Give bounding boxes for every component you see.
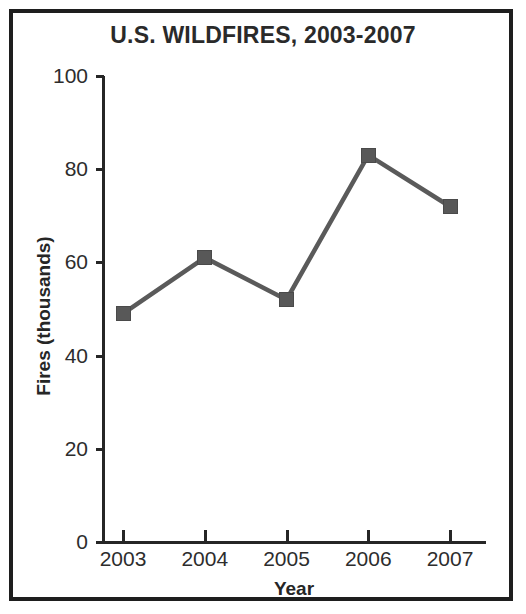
series-polyline [123, 155, 450, 314]
chart-figure: U.S. WILDFIRES, 2003-2007 020406080100 2… [0, 0, 526, 614]
data-point-marker [443, 199, 458, 214]
data-point-marker [361, 148, 376, 163]
data-point-marker [197, 250, 212, 265]
x-axis-title: Year [102, 578, 486, 600]
series-line-layer [0, 0, 526, 614]
data-point-marker [279, 292, 294, 307]
y-axis-title: Fires (thousands) [33, 186, 55, 446]
plot-area: 020406080100 20032004200520062007 Year F… [0, 0, 526, 614]
data-point-marker [116, 306, 131, 321]
